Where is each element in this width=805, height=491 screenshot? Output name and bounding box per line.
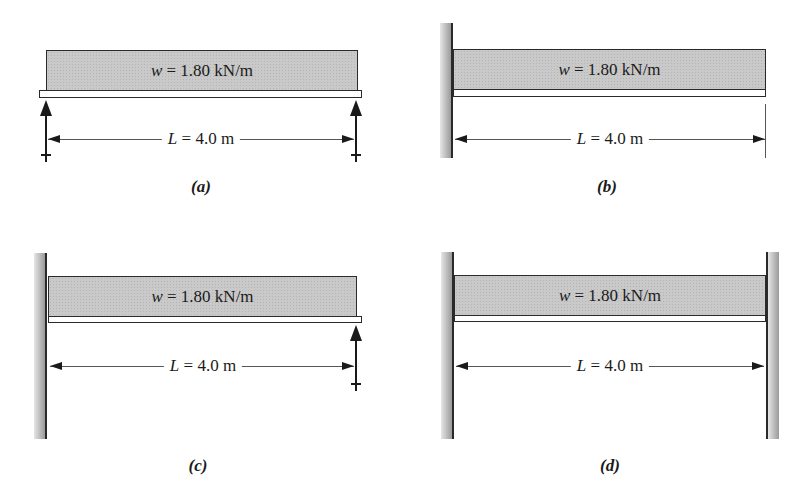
- dimension-arrow-left-icon: [50, 362, 62, 370]
- extension-line: [765, 104, 766, 158]
- dimension-arrow-right-icon: [752, 362, 764, 370]
- span-dimension: L = 4.0 m: [50, 358, 354, 374]
- load-variable: w: [151, 287, 162, 306]
- dimension-arrow-right-icon: [753, 135, 765, 143]
- span-label: L = 4.0 m: [162, 129, 240, 149]
- dimension-arrow-left-icon: [48, 135, 60, 143]
- span-label: L = 4.0 m: [571, 356, 649, 376]
- distributed-load: w = 1.80 kN/m: [46, 50, 358, 91]
- dimension-arrow-left-icon: [456, 362, 468, 370]
- distributed-load: w = 1.80 kN/m: [48, 276, 357, 317]
- caption-a: (a): [191, 177, 211, 197]
- span-dimension: L = 4.0 m: [455, 131, 765, 147]
- span-dimension: L = 4.0 m: [48, 131, 354, 147]
- load-label: w = 1.80 kN/m: [455, 286, 765, 306]
- fixed-wall-left: [34, 253, 47, 439]
- span-value: = 4.0 m: [586, 129, 643, 148]
- caption-b: (b): [597, 177, 617, 197]
- dimension-arrow-right-icon: [342, 135, 354, 143]
- distributed-load: w = 1.80 kN/m: [453, 49, 766, 90]
- load-label: w = 1.80 kN/m: [454, 60, 765, 80]
- span-value: = 4.0 m: [177, 129, 234, 148]
- dimension-arrow-right-icon: [342, 362, 354, 370]
- beam: [454, 315, 766, 322]
- dimension-arrow-left-icon: [455, 135, 467, 143]
- load-value: = 1.80 kN/m: [570, 286, 661, 305]
- span-label: L = 4.0 m: [571, 129, 649, 149]
- caption-d: (d): [600, 456, 620, 476]
- load-value: = 1.80 kN/m: [570, 60, 661, 79]
- span-dimension: L = 4.0 m: [456, 358, 764, 374]
- beam: [48, 316, 362, 323]
- load-variable: w: [151, 61, 162, 80]
- load-variable: w: [559, 286, 570, 305]
- beam: [39, 90, 362, 98]
- load-value: = 1.80 kN/m: [163, 287, 254, 306]
- load-value: = 1.80 kN/m: [162, 61, 253, 80]
- fixed-wall-left: [440, 23, 453, 158]
- fixed-wall-right: [766, 252, 779, 439]
- distributed-load: w = 1.80 kN/m: [454, 275, 766, 316]
- load-variable: w: [558, 60, 569, 79]
- load-label: w = 1.80 kN/m: [49, 287, 356, 307]
- caption-c: (c): [189, 456, 208, 476]
- span-value: = 4.0 m: [586, 356, 643, 375]
- span-label: L = 4.0 m: [164, 356, 242, 376]
- beam: [453, 89, 766, 97]
- span-value: = 4.0 m: [179, 356, 236, 375]
- load-label: w = 1.80 kN/m: [47, 61, 357, 81]
- fixed-wall-left: [441, 252, 454, 439]
